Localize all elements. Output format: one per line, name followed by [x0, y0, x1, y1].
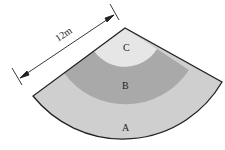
arrowhead-right-icon	[105, 15, 114, 22]
dimension-label: 12m	[53, 24, 74, 43]
region-c-label: C	[123, 42, 130, 53]
region-a-label: A	[122, 122, 130, 133]
region-b-label: B	[122, 80, 129, 91]
arrowhead-left-icon	[20, 71, 29, 78]
dimension-tick-left	[12, 68, 22, 85]
sector-diagram: 12m C B A	[0, 0, 225, 150]
